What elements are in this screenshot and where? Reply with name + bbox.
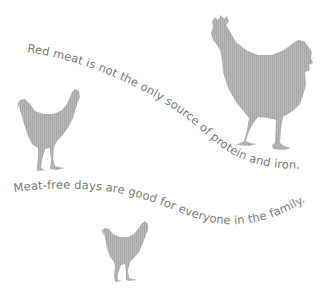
hen-icon [102,221,148,282]
rooster-icon [211,15,313,150]
poster-graphic: Red meat is not the only source of prote… [0,0,327,297]
poster-canvas: Red meat is not the only source of prote… [0,0,327,297]
headline-line-2: Meat-free days are good for everyone in … [13,178,307,228]
hen-icon [17,89,80,171]
